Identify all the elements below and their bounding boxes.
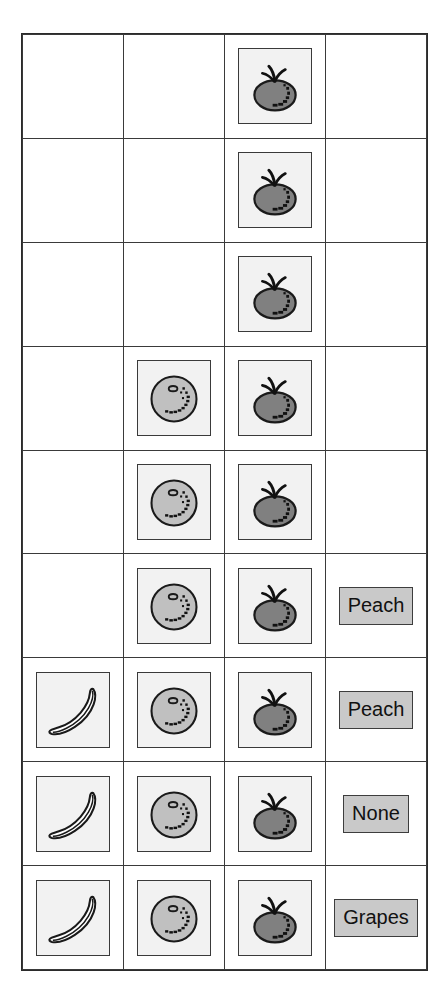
cell-tomato-r6 (225, 554, 326, 658)
cell-peach-r7 (124, 658, 225, 762)
cell-label-r6: Peach (326, 554, 427, 658)
label-slot: Grapes (326, 866, 426, 969)
peach-icon (144, 680, 204, 740)
tomato-icon (245, 680, 305, 740)
empty-slot (124, 139, 224, 242)
banana-icon (43, 784, 103, 844)
banana-icon-tile (36, 880, 110, 956)
cell-banana-r5 (23, 450, 124, 554)
empty-slot (326, 243, 426, 346)
cell-peach-r2 (124, 138, 225, 242)
tomato-icon-tile (238, 360, 312, 436)
status-badge: Grapes (334, 899, 418, 937)
tomato-icon-tile (238, 672, 312, 748)
cell-banana-r8 (23, 762, 124, 866)
table-row (23, 138, 427, 242)
fruit-grid-table: Peach (22, 34, 427, 970)
table-row: Grapes (23, 866, 427, 970)
cell-banana-r7 (23, 658, 124, 762)
icon-slot (225, 866, 325, 969)
empty-slot (23, 554, 123, 657)
cell-banana-r3 (23, 242, 124, 346)
tomato-icon (245, 368, 305, 428)
cell-peach-r5 (124, 450, 225, 554)
icon-slot (124, 347, 224, 450)
tomato-icon (245, 264, 305, 324)
cell-tomato-r5 (225, 450, 326, 554)
cell-peach-r9 (124, 866, 225, 970)
cell-tomato-r1 (225, 35, 326, 139)
tomato-icon (245, 56, 305, 116)
cell-label-r3 (326, 242, 427, 346)
label-slot: Peach (326, 554, 426, 657)
table-row: Peach (23, 554, 427, 658)
table-row (23, 450, 427, 554)
cell-label-r5 (326, 450, 427, 554)
cell-tomato-r9 (225, 866, 326, 970)
fruit-grid-body: Peach (23, 35, 427, 970)
icon-slot (225, 35, 325, 138)
cell-banana-r2 (23, 138, 124, 242)
banana-icon (43, 680, 103, 740)
cell-banana-r4 (23, 346, 124, 450)
table-row: None (23, 762, 427, 866)
banana-icon-tile (36, 776, 110, 852)
peach-icon-tile (137, 776, 211, 852)
cell-tomato-r4 (225, 346, 326, 450)
peach-icon (144, 472, 204, 532)
cell-label-r4 (326, 346, 427, 450)
icon-slot (124, 451, 224, 554)
icon-slot (124, 762, 224, 865)
cell-label-r2 (326, 138, 427, 242)
tomato-icon-tile (238, 776, 312, 852)
icon-slot (225, 658, 325, 761)
banana-icon-tile (36, 672, 110, 748)
peach-icon (144, 784, 204, 844)
empty-slot (124, 35, 224, 138)
peach-icon-tile (137, 360, 211, 436)
peach-icon-tile (137, 672, 211, 748)
peach-icon (144, 576, 204, 636)
cell-banana-r1 (23, 35, 124, 139)
icon-slot (225, 762, 325, 865)
icon-slot (23, 866, 123, 969)
icon-slot (225, 243, 325, 346)
table-row (23, 35, 427, 139)
tomato-icon-tile (238, 256, 312, 332)
status-badge: None (343, 795, 409, 833)
cell-label-r1 (326, 35, 427, 139)
empty-slot (23, 139, 123, 242)
empty-slot (326, 347, 426, 450)
icon-slot (124, 554, 224, 657)
cell-peach-r8 (124, 762, 225, 866)
cell-tomato-r7 (225, 658, 326, 762)
empty-slot (23, 451, 123, 554)
icon-slot (225, 451, 325, 554)
peach-icon-tile (137, 880, 211, 956)
label-slot: None (326, 762, 426, 865)
tomato-icon-tile (238, 152, 312, 228)
empty-slot (23, 35, 123, 138)
icon-slot (225, 139, 325, 242)
cell-tomato-r3 (225, 242, 326, 346)
tomato-icon-tile (238, 568, 312, 644)
cell-peach-r3 (124, 242, 225, 346)
icon-slot (124, 866, 224, 969)
icon-slot (225, 347, 325, 450)
tomato-icon (245, 576, 305, 636)
cell-tomato-r2 (225, 138, 326, 242)
cell-banana-r9 (23, 866, 124, 970)
peach-icon-tile (137, 568, 211, 644)
status-badge: Peach (339, 587, 414, 625)
peach-icon-tile (137, 464, 211, 540)
empty-slot (326, 139, 426, 242)
tomato-icon-tile (238, 464, 312, 540)
icon-slot (124, 658, 224, 761)
tomato-icon-tile (238, 48, 312, 124)
cell-label-r8: None (326, 762, 427, 866)
peach-icon (144, 368, 204, 428)
status-badge: Peach (339, 691, 414, 729)
tomato-icon (245, 888, 305, 948)
cell-tomato-r8 (225, 762, 326, 866)
cell-label-r7: Peach (326, 658, 427, 762)
